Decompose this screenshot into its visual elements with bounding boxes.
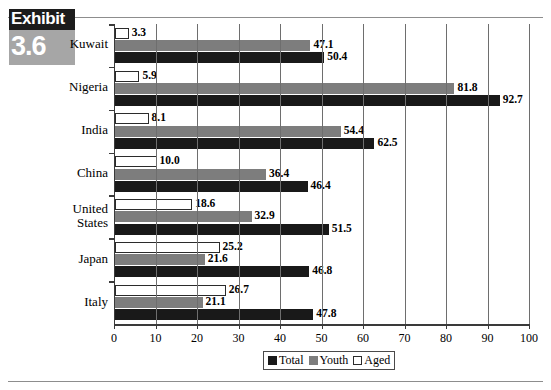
x-axis-tick-label: 20 [177,331,217,345]
x-axis-tick [239,324,240,329]
gridline [529,24,530,324]
bar-value-label: 8.1 [152,112,166,123]
bar-youth-india [115,126,341,137]
bar-value-label: 3.3 [132,27,146,38]
bar-total-india [115,138,374,149]
gridline [322,24,323,324]
gridline [239,24,240,324]
x-axis-tick-label: 70 [385,331,425,345]
y-axis-tick [109,153,114,155]
x-axis-tick [280,324,281,329]
bar-aged-india [115,113,149,124]
gridline [488,24,489,324]
bar-value-label: 32.9 [255,210,275,221]
bar-aged-kuwait [115,28,129,39]
x-axis-tick-label: 40 [260,331,300,345]
gridline [405,24,406,324]
bar-value-label: 25.2 [223,241,243,252]
x-axis-tick [529,324,530,329]
bar-aged-china [115,156,157,167]
bar-aged-united-states [115,199,192,210]
y-axis-tick [109,195,114,197]
bar-value-label: 54.4 [344,125,364,136]
bar-youth-italy [115,297,203,308]
category-label-kuwait: Kuwait [38,37,114,51]
bar-total-china [115,181,308,192]
legend-swatch-total-icon [268,356,277,365]
category-label-japan: Japan [38,252,114,266]
x-axis-tick [197,324,198,329]
x-axis-tick-label: 100 [509,331,549,345]
y-axis-tick [109,110,114,112]
x-axis-tick [322,324,323,329]
x-axis-tick [156,324,157,329]
bar-total-nigeria [115,95,500,106]
bar-youth-kuwait [115,40,310,51]
bar-value-label: 92.7 [503,94,523,105]
legend-label-youth: Youth [320,353,349,367]
legend-item-total: Total [268,353,304,367]
category-label-china: China [38,166,114,180]
bar-value-label: 62.5 [377,137,397,148]
y-axis-tick [109,238,114,240]
legend-swatch-youth-icon [309,356,318,365]
legend-label-aged: Aged [364,353,390,367]
category-label-india: India [38,123,114,137]
bar-value-label: 51.5 [332,223,352,234]
bar-chart: 3.347.150.45.981.892.78.154.462.510.036.… [114,24,529,324]
y-axis-tick [109,281,114,283]
x-axis-tick-label: 50 [302,331,342,345]
x-axis-tick-label: 30 [219,331,259,345]
gridline [363,24,364,324]
legend-swatch-aged-icon [353,356,362,365]
x-axis-tick [114,324,115,329]
y-axis-tick [109,24,114,26]
bar-value-label: 18.6 [195,198,215,209]
x-axis-tick [405,324,406,329]
legend-label-total: Total [279,353,304,367]
divider-bottom [8,381,543,382]
bar-aged-nigeria [115,71,139,82]
bar-value-label: 21.1 [206,296,226,307]
gridline [197,24,198,324]
bar-youth-united-states [115,211,252,222]
bar-aged-japan [115,242,220,253]
category-label-nigeria: Nigeria [38,80,114,94]
x-axis-tick-label: 60 [343,331,383,345]
divider-top [8,17,543,18]
gridline [280,24,281,324]
bar-youth-china [115,169,266,180]
legend-item-aged: Aged [353,353,390,367]
category-label-united-states: UnitedStates [38,202,114,230]
bar-value-label: 81.8 [457,82,477,93]
bar-value-label: 10.0 [160,155,180,166]
bar-total-kuwait [115,52,324,63]
bar-youth-japan [115,254,205,265]
exhibit-label: Exhibit [9,9,75,30]
x-axis-tick-label: 90 [468,331,508,345]
x-axis-tick [488,324,489,329]
x-axis-tick-label: 80 [426,331,466,345]
x-axis-tick-label: 10 [136,331,176,345]
gridline [446,24,447,324]
bar-value-label: 50.4 [327,51,347,62]
legend-item-youth: Youth [309,353,349,367]
y-axis-tick [109,67,114,69]
bar-value-label: 47.1 [313,39,333,50]
bar-value-label: 47.8 [316,308,336,319]
x-axis-tick [446,324,447,329]
x-axis-tick-label: 0 [94,331,134,345]
bar-total-italy [115,309,313,320]
x-axis-tick [363,324,364,329]
category-label-italy: Italy [38,295,114,309]
gridline [156,24,157,324]
bar-total-united-states [115,224,329,235]
bar-value-label: 21.6 [208,253,228,264]
chart-legend: Total Youth Aged [263,351,395,370]
